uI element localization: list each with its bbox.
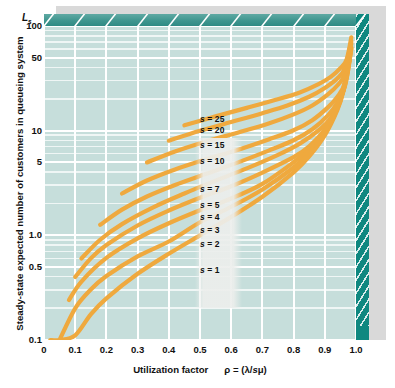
y-axis-title: Steady-state expected number of customer… (14, 29, 25, 339)
x-tick-label: 0.4 (154, 344, 184, 355)
series-label-25: s = 25 (200, 114, 224, 124)
x-axis-title-text: Utilization factor (133, 364, 208, 375)
x-tick-label: 0.8 (279, 344, 309, 355)
x-tick-label: 0.2 (91, 344, 121, 355)
chart-figure: s = 25s = 20s = 15s = 10s = 7s = 5s = 4s… (0, 0, 395, 388)
x-tick-label: 0.6 (216, 344, 246, 355)
series-label-1: s = 1 (200, 265, 220, 275)
x-tick-label: 1.0 (341, 344, 371, 355)
series-label-10: s = 10 (200, 156, 224, 166)
slab-right-edge (356, 14, 369, 340)
x-tick-label: 0.9 (310, 344, 340, 355)
series-label-5: s = 5 (200, 200, 220, 210)
series-label-4: s = 4 (200, 212, 220, 222)
x-tick-label: 0.3 (123, 344, 153, 355)
x-tick-label: 0.7 (247, 344, 277, 355)
x-axis-title-symbol: ρ = (λ/sμ) (224, 364, 267, 375)
series-label-15: s = 15 (200, 140, 224, 150)
series-label-3: s = 3 (200, 225, 220, 235)
x-axis-title: Utilization factorρ = (λ/sμ) (44, 364, 356, 375)
series-label-7: s = 7 (200, 184, 220, 194)
x-tick-label: 0.1 (60, 344, 90, 355)
slab-hatch-pattern (356, 14, 369, 340)
x-tick-label: 0.5 (185, 344, 215, 355)
plot-area: s = 25s = 20s = 15s = 10s = 7s = 5s = 4s… (44, 26, 356, 340)
series-label-20: s = 20 (200, 125, 224, 135)
series-label-2: s = 2 (200, 239, 220, 249)
x-tick-label: 0 (29, 344, 59, 355)
slab-corner (356, 326, 369, 340)
